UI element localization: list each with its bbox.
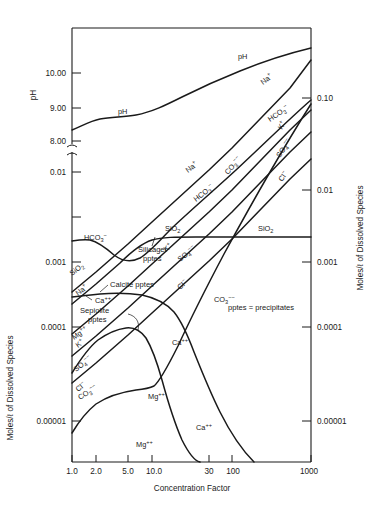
ytick-label-right-010: 0.10 xyxy=(317,94,333,103)
xtick-label-10: 10.0 xyxy=(146,467,162,476)
geochemistry-chart: 10.00 9.00 8.00 0.01 0.001 0.0001 0.0000… xyxy=(0,0,373,505)
xtick-label-2: 2.0 xyxy=(90,467,102,476)
annotation-calcite-pptes: Calcite pptes xyxy=(110,280,154,289)
y-axis-title-ph: pH xyxy=(29,90,38,101)
curve-label-hco3-left: HCO3− xyxy=(84,232,107,243)
ytick-label-ph-9: 9.00 xyxy=(50,104,66,113)
annotation-silicagel-pptes-line2: pptes xyxy=(143,254,162,263)
y-axis-title-right: Moles/ℓ of Dissolved Species xyxy=(356,185,365,290)
ytick-label-left-000001: 0.00001 xyxy=(36,417,66,426)
ytick-label-right-00001: 0.0001 xyxy=(317,323,342,332)
note-pptes-legend: pptes = precipitates xyxy=(228,303,294,312)
ytick-label-right-000001: 0.00001 xyxy=(317,417,347,426)
svg-text:HCO3−: HCO3− xyxy=(84,232,107,243)
annotation-silicagel-pptes-line1: Silicagel xyxy=(138,245,167,254)
xtick-label-1: 1.0 xyxy=(66,467,78,476)
annotation-sepiolite-pptes-line1: Sepiolite xyxy=(80,306,109,315)
curve-label-ph-right: pH xyxy=(238,52,247,61)
ytick-label-right-001: 0.01 xyxy=(317,186,333,195)
ytick-label-ph-8: 8.00 xyxy=(50,137,66,146)
xtick-label-30: 30 xyxy=(204,467,214,476)
xtick-label-1000: 1000 xyxy=(300,467,319,476)
ytick-label-ph-10: 10.00 xyxy=(46,69,67,78)
ytick-label-left-0001: 0.001 xyxy=(46,258,67,267)
x-axis-title: Concentration Factor xyxy=(154,484,231,493)
annotation-sepiolite-pptes-line2: pptes xyxy=(88,315,107,324)
xtick-label-5: 5.0 xyxy=(122,467,134,476)
xtick-label-100: 100 xyxy=(226,467,240,476)
chart-root: 10.00 9.00 8.00 0.01 0.001 0.0001 0.0000… xyxy=(0,0,373,505)
ytick-label-left-00001: 0.0001 xyxy=(41,323,66,332)
curve-label-ph-left: pH xyxy=(118,107,127,116)
ytick-label-right-0001: 0.001 xyxy=(317,258,338,267)
ytick-label-left-001: 0.01 xyxy=(50,168,66,177)
y-axis-title-left: Moles/ℓ of Dissolved Species xyxy=(6,335,15,440)
